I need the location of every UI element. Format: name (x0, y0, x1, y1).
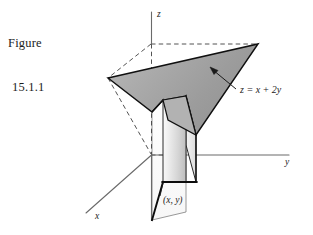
base-point-label: (x, y) (163, 195, 183, 206)
coordinate-diagram: z y x z = x + 2y (x, y) (0, 0, 313, 235)
x-axis-label: x (94, 211, 100, 221)
surface-equation-label: z = x + 2y (239, 84, 282, 95)
x-axis-line (86, 155, 152, 213)
figure-container: Figure 15.1.1 (0, 0, 313, 235)
z-axis-label: z (156, 9, 161, 19)
y-axis-label: y (284, 157, 290, 167)
